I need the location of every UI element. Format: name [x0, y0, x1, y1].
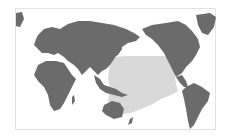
- landmass-south-america: [182, 83, 210, 129]
- landmass-new-zealand: [128, 117, 133, 125]
- landmass-madagascar: [72, 95, 75, 105]
- landmass-central-america: [176, 75, 188, 87]
- landmass-greenland: [196, 13, 216, 35]
- map-frame: [15, 8, 216, 130]
- world-map: [16, 9, 217, 131]
- landmass-africa: [34, 61, 76, 111]
- landmass-greenland-left: [16, 12, 24, 27]
